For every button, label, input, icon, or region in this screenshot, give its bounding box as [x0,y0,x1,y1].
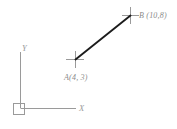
y-axis-label: Y [22,43,28,53]
coordinate-diagram: Y X A(4, 3) B (10,8) [0,0,177,129]
diagram-canvas: Y X A(4, 3) B (10,8) [0,0,177,129]
line-segment-ab [76,16,131,60]
point-a-label: A(4, 3) [63,73,88,82]
x-axis-label: X [78,103,85,113]
point-b-label: B (10,8) [139,11,167,20]
